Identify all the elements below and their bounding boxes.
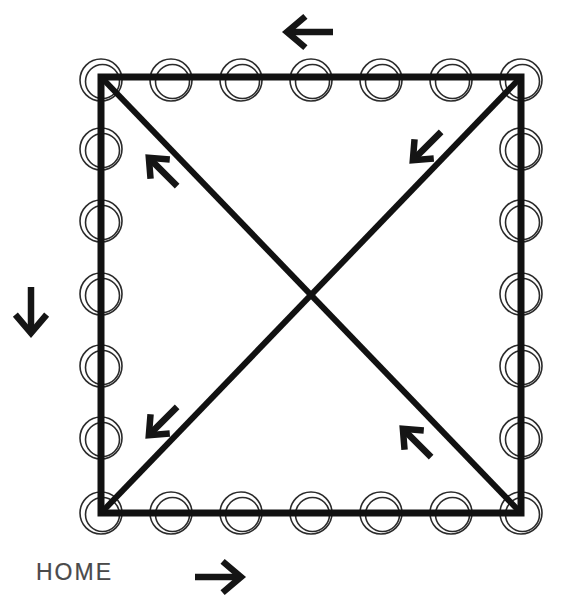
floor-plan-svg bbox=[0, 0, 573, 615]
diagram-canvas: HOME bbox=[0, 0, 573, 615]
home-label: HOME bbox=[36, 561, 113, 584]
